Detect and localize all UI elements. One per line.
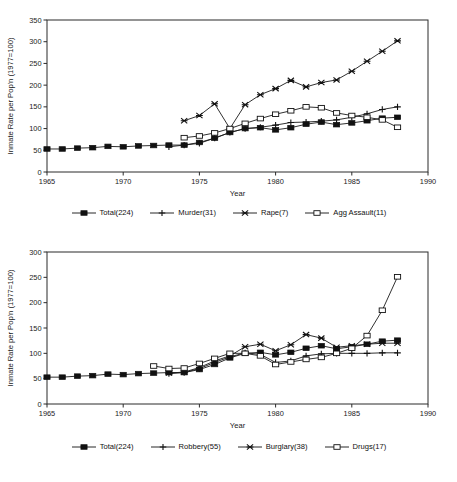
legend-symbol-x [237, 442, 263, 452]
data-point [242, 344, 249, 349]
data-point [196, 113, 203, 118]
legend-symbol-open-square [324, 442, 350, 452]
x-axis-tick-label: 1980 [267, 177, 283, 186]
x-axis-tick-label: 1970 [115, 177, 131, 186]
y-axis-tick-label: 150 [29, 102, 41, 111]
y-axis-tick-label: 0 [37, 400, 41, 409]
legend-marker [242, 210, 249, 215]
data-point [273, 112, 279, 117]
data-point [151, 364, 157, 369]
data-point [227, 351, 233, 356]
data-point [242, 121, 248, 126]
line-chart-top: 0501001502002503003501965197019751980198… [0, 0, 457, 200]
legend-item[interactable]: Total(224) [71, 208, 134, 218]
x-axis-tick-label: 1965 [39, 177, 55, 186]
data-point [348, 69, 355, 74]
y-axis-tick-label: 100 [29, 349, 41, 358]
data-point [257, 354, 263, 359]
y-axis-tick-label: 100 [29, 124, 41, 133]
x-axis-tick-label: 1970 [115, 409, 131, 418]
data-point [379, 118, 385, 123]
data-point [349, 346, 355, 351]
legend-marker [314, 211, 320, 216]
data-point [59, 375, 65, 380]
data-point [318, 355, 324, 360]
data-point [318, 343, 324, 348]
legend-label: Total(224) [100, 442, 134, 452]
series-line [47, 117, 398, 149]
data-point [318, 80, 325, 85]
data-point [394, 125, 400, 130]
data-point [303, 332, 310, 337]
x-axis-tick-label: 1965 [39, 409, 55, 418]
legend-item[interactable]: Murder(31) [149, 208, 216, 218]
legend-symbol-filled-square [71, 442, 97, 452]
x-axis-tick-label: 1985 [344, 177, 360, 186]
x-axis-tick-label: 1980 [267, 409, 283, 418]
data-point [257, 342, 264, 347]
y-axis-tick-label: 50 [33, 146, 41, 155]
data-point [135, 144, 141, 149]
data-point [105, 144, 111, 149]
data-point [227, 126, 233, 131]
data-point [394, 38, 401, 43]
legend-item[interactable]: Burglary(38) [237, 442, 308, 452]
data-point [288, 108, 294, 113]
plot-frame [47, 20, 428, 172]
data-point [74, 146, 80, 151]
plot-frame [47, 252, 428, 404]
data-point [181, 118, 188, 123]
y-axis-tick-label: 250 [29, 273, 41, 282]
y-axis-title: Inmate Rate per Pop'n (1977=100) [6, 269, 15, 386]
y-axis-tick-label: 50 [33, 374, 41, 383]
data-point [394, 350, 401, 356]
legend-label: Agg Assault(11) [333, 208, 386, 218]
data-point [151, 143, 157, 148]
legend-item[interactable]: Rape(7) [232, 208, 288, 218]
legend-item[interactable]: Total(224) [71, 442, 134, 452]
data-point [303, 357, 309, 362]
data-point [288, 125, 294, 130]
legend-symbol-filled-square [71, 208, 97, 218]
data-point [90, 373, 96, 378]
data-point [74, 374, 80, 379]
legend-marker [81, 445, 87, 450]
y-axis-tick-label: 300 [29, 248, 41, 257]
data-point [364, 59, 371, 64]
data-point [379, 49, 386, 54]
legend-marker [333, 445, 339, 450]
data-point [288, 350, 294, 355]
y-axis-tick-label: 200 [29, 81, 41, 90]
data-point [44, 375, 50, 380]
legend-label: Drugs(17) [353, 442, 387, 452]
legend-marker [246, 444, 253, 449]
x-axis-tick-label: 1975 [191, 409, 207, 418]
y-axis-tick-label: 250 [29, 59, 41, 68]
legend-label: Rape(7) [261, 208, 288, 218]
data-point [196, 361, 202, 366]
data-point [90, 145, 96, 150]
data-point [364, 333, 370, 338]
legend-marker [159, 210, 166, 216]
chart-panel-bottom: 0501001502002503001965197019751980198519… [0, 232, 457, 482]
legend-symbol-open-square [304, 208, 330, 218]
data-point [318, 105, 324, 110]
data-point [379, 308, 385, 313]
legend-item[interactable]: Drugs(17) [324, 442, 387, 452]
data-point [272, 86, 279, 91]
data-point [303, 346, 309, 351]
data-point [287, 342, 294, 347]
data-point [212, 131, 218, 136]
legend-item[interactable]: Agg Assault(11) [304, 208, 386, 218]
data-point [59, 147, 65, 152]
chart-panel-top: 0501001502002503003501965197019751980198… [0, 0, 457, 232]
legend-marker [159, 444, 166, 450]
data-point [333, 351, 339, 356]
legend-item[interactable]: Robbery(55) [150, 442, 221, 452]
data-point [151, 371, 157, 376]
y-axis-tick-label: 150 [29, 324, 41, 333]
data-point [211, 101, 218, 106]
legend-marker [80, 211, 86, 216]
data-point [394, 275, 400, 280]
data-point [181, 366, 187, 371]
